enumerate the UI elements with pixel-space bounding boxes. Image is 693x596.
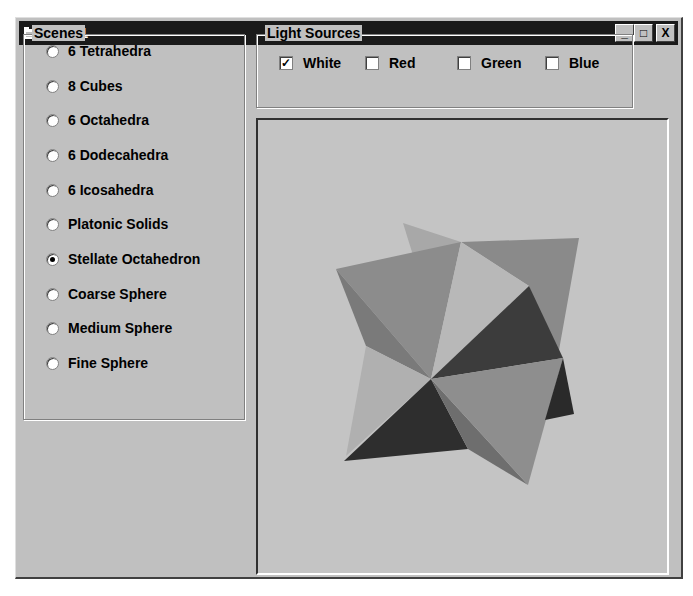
scene-option-label: 6 Tetrahedra <box>68 43 151 59</box>
checkbox-icon[interactable] <box>457 56 471 70</box>
radio-icon[interactable] <box>46 114 59 127</box>
scene-option-fine-sphere[interactable]: Fine Sphere <box>46 353 148 373</box>
light-option-label: Blue <box>569 55 599 71</box>
scene-option-6-icosahedra[interactable]: 6 Icosahedra <box>46 180 154 200</box>
scene-option-label: 6 Octahedra <box>68 112 149 128</box>
app-window: Light1 _ □ X Scenes 6 Tetrahedra 8 Cubes… <box>15 17 683 579</box>
scene-option-6-octahedra[interactable]: 6 Octahedra <box>46 110 149 130</box>
light-sources-group: Light Sources ✓ White Red Green Blue <box>256 34 633 108</box>
radio-icon[interactable] <box>46 45 59 58</box>
checkbox-icon[interactable] <box>365 56 379 70</box>
scenes-group: Scenes 6 Tetrahedra 8 Cubes 6 Octahedra … <box>23 34 245 420</box>
scene-option-6-dodecahedra[interactable]: 6 Dodecahedra <box>46 145 168 165</box>
light-white-checkbox[interactable]: ✓ White <box>279 53 341 73</box>
scene-option-stellate-octahedron[interactable]: Stellate Octahedron <box>46 249 200 269</box>
radio-icon[interactable] <box>46 357 59 370</box>
light-sources-group-label: Light Sources <box>265 25 362 41</box>
scene-option-label: 6 Icosahedra <box>68 182 154 198</box>
scenes-group-label: Scenes <box>32 25 85 41</box>
light-blue-checkbox[interactable]: Blue <box>545 53 599 73</box>
radio-icon[interactable] <box>46 218 59 231</box>
scene-option-label: Medium Sphere <box>68 320 172 336</box>
light-option-label: White <box>303 55 341 71</box>
close-button[interactable]: X <box>656 24 675 42</box>
scene-option-label: 8 Cubes <box>68 78 122 94</box>
light-green-checkbox[interactable]: Green <box>457 53 521 73</box>
light-option-label: Green <box>481 55 521 71</box>
radio-icon[interactable] <box>46 80 59 93</box>
scene-option-medium-sphere[interactable]: Medium Sphere <box>46 318 172 338</box>
checkbox-icon[interactable] <box>545 56 559 70</box>
scene-option-label: Stellate Octahedron <box>68 251 200 267</box>
light-option-label: Red <box>389 55 415 71</box>
scene-option-label: Fine Sphere <box>68 355 148 371</box>
scene-option-label: Coarse Sphere <box>68 286 167 302</box>
render-viewport[interactable] <box>256 118 669 575</box>
light-red-checkbox[interactable]: Red <box>365 53 415 73</box>
radio-icon[interactable] <box>46 288 59 301</box>
radio-icon[interactable] <box>46 322 59 335</box>
scene-option-platonic-solids[interactable]: Platonic Solids <box>46 214 168 234</box>
scene-option-6-tetrahedra[interactable]: 6 Tetrahedra <box>46 41 151 61</box>
scene-option-8-cubes[interactable]: 8 Cubes <box>46 76 122 96</box>
radio-selected-icon[interactable] <box>46 253 59 266</box>
scene-option-label: Platonic Solids <box>68 216 168 232</box>
radio-icon[interactable] <box>46 184 59 197</box>
scene-option-coarse-sphere[interactable]: Coarse Sphere <box>46 284 167 304</box>
radio-icon[interactable] <box>46 149 59 162</box>
stellate-octahedron-render <box>258 120 667 573</box>
checkbox-checked-icon[interactable]: ✓ <box>279 56 293 70</box>
scene-option-label: 6 Dodecahedra <box>68 147 168 163</box>
maximize-icon: □ <box>640 26 647 40</box>
maximize-button[interactable]: □ <box>634 24 653 42</box>
close-icon: X <box>661 26 669 40</box>
